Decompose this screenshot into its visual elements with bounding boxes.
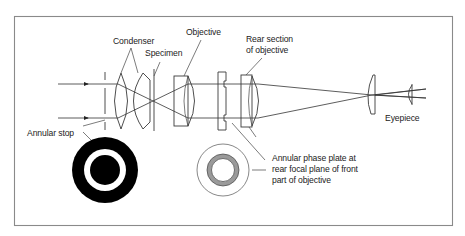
label-condenser: Condenser [113, 36, 154, 46]
label-phase-plate-1: Annular phase plate at [272, 153, 357, 163]
phase-plate-front [197, 144, 249, 196]
phase-contrast-diagram: Condenser Specimen Objective Rear sectio… [0, 0, 465, 236]
label-phase-plate-3: part of objective [272, 175, 331, 185]
label-annular-stop: Annular stop [27, 128, 74, 138]
label-phase-plate-2: rear focal plane of front [272, 164, 359, 174]
label-objective: Objective [186, 27, 221, 37]
annular-stop-front [72, 137, 138, 203]
label-rear-section-1: Rear section [246, 34, 293, 44]
label-eyepiece: Eyepiece [385, 113, 420, 123]
label-rear-section-2: of objective [246, 45, 289, 55]
label-specimen: Specimen [145, 48, 183, 58]
